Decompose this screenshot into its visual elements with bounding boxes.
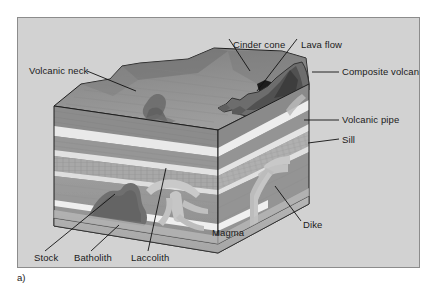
label-batholith: Batholith	[74, 252, 112, 263]
figure-caption: a)	[17, 272, 25, 283]
label-stock: Stock	[34, 252, 58, 263]
label-laccolith: Laccolith	[131, 252, 169, 263]
label-dike: Dike	[303, 219, 322, 230]
label-lava-flow: Lava flow	[301, 39, 342, 50]
label-sill: Sill	[342, 134, 355, 145]
label-magma: Magma	[212, 227, 244, 238]
figure-panel: Cinder cone Lava flow Volcanic neck Comp…	[17, 17, 420, 268]
figure-page: Cinder cone Lava flow Volcanic neck Comp…	[0, 0, 448, 291]
label-composite-volcano: Composite volcano	[342, 66, 420, 77]
label-volcanic-pipe: Volcanic pipe	[342, 114, 399, 125]
label-volcanic-neck: Volcanic neck	[29, 65, 88, 76]
leader-sill	[308, 139, 339, 143]
label-cinder-cone: Cinder cone	[233, 39, 285, 50]
